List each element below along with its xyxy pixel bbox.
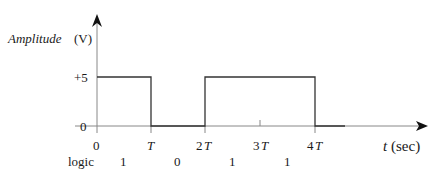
x-axis-var-label: t [383, 138, 388, 154]
logic-bit-3: 1 [229, 154, 236, 169]
square-wave-signal [97, 77, 345, 126]
y-tick-plus5: +5 [74, 70, 88, 85]
x-tick-0: 0 [93, 138, 100, 153]
logic-bit-4: 1 [284, 154, 291, 169]
x-tick-4T-num: 4 [307, 138, 314, 153]
x-tick-4T-var: T [315, 138, 323, 153]
x-tick-2T-var: T [204, 138, 212, 153]
logic-bit-1: 1 [120, 154, 127, 169]
x-tick-3T-var: T [261, 138, 269, 153]
logic-bit-2: 0 [174, 154, 181, 169]
volt-unit-label: (V) [74, 31, 92, 46]
x-axis-unit-label: (sec) [391, 138, 420, 155]
waveform-diagram: Amplitude (V) +5 0 0 T 2 T 3 T 4 T t (se… [0, 0, 436, 178]
y-tick-zero: 0 [80, 119, 87, 134]
amplitude-label: Amplitude [7, 31, 62, 46]
x-tick-3T-num: 3 [253, 138, 260, 153]
x-tick-2T-num: 2 [196, 138, 203, 153]
logic-label: logic [68, 154, 94, 169]
x-tick-T: T [147, 138, 155, 153]
